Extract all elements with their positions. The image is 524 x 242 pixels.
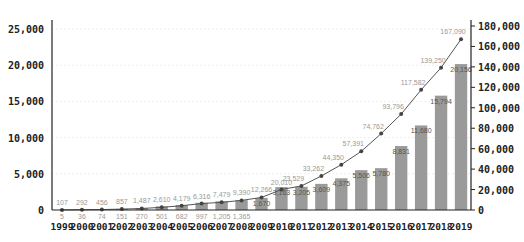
bar-value-label: 36 <box>78 213 86 220</box>
bar-value-label: 3,609 <box>313 186 331 193</box>
right-axis-tick-label: 160,000 <box>478 41 520 52</box>
line-point <box>399 112 403 116</box>
line-point <box>319 174 323 178</box>
right-axis-tick-label: 80,000 <box>478 123 514 134</box>
line-point <box>419 88 423 92</box>
left-axis-tick-label: 0 <box>38 205 44 216</box>
bar-value-label: 1,365 <box>233 213 251 220</box>
combo-chart: 536741512705016829971,2051,3651,6703,163… <box>0 0 524 242</box>
bar <box>415 125 427 210</box>
left-axis-tick-label: 25,000 <box>8 24 44 35</box>
line-point <box>180 204 184 208</box>
line-value-label: 1,487 <box>133 197 151 204</box>
line-value-label: 23,529 <box>283 175 305 182</box>
bar-value-label: 8,831 <box>392 148 410 155</box>
line-point <box>339 163 343 167</box>
line-point <box>240 198 244 202</box>
bar-value-labels: 536741512705016829971,2051,3651,6703,163… <box>60 66 472 220</box>
line-value-label: 74,762 <box>363 123 385 130</box>
line-point <box>379 132 383 136</box>
line-value-label: 9,390 <box>233 189 251 196</box>
left-axis-ticks: 05,00010,00015,00020,00025,000 <box>8 24 44 216</box>
line-value-label: 33,262 <box>303 165 325 172</box>
line-value-label: 456 <box>96 199 108 206</box>
line-point <box>200 202 204 206</box>
right-axis-tick-label: 60,000 <box>478 144 514 155</box>
bar-value-label: 5,780 <box>372 170 390 177</box>
bar-value-label: 997 <box>196 213 208 220</box>
bar-value-label: 682 <box>176 213 188 220</box>
line-point <box>439 66 443 70</box>
right-axis-tick-label: 20,000 <box>478 185 514 196</box>
right-axis-tick-label: 180,000 <box>478 21 520 32</box>
right-axis-tick-label: 120,000 <box>478 82 520 93</box>
right-axis-tick-label: 140,000 <box>478 62 520 73</box>
axes <box>52 20 471 210</box>
bar-value-label: 11,680 <box>411 127 432 134</box>
bar-value-label: 501 <box>156 213 168 220</box>
line-value-label: 6,316 <box>193 193 211 200</box>
line-point <box>359 149 363 153</box>
bar-value-label: 1,205 <box>213 213 231 220</box>
bar <box>395 146 407 210</box>
line-value-label: 2,610 <box>153 196 171 203</box>
bar-value-label: 5,506 <box>352 172 370 179</box>
line-point <box>279 188 283 192</box>
line-point <box>459 37 463 41</box>
x-axis-year-labels: 1999200020012002200320042005200620072008… <box>51 221 473 232</box>
line-point <box>220 200 224 204</box>
line-point <box>260 195 264 199</box>
line-value-label: 44,350 <box>323 154 345 161</box>
right-axis-tick-label: 100,000 <box>478 103 520 114</box>
left-axis-tick-label: 5,000 <box>14 169 44 180</box>
bar-value-label: 20,156 <box>450 66 472 73</box>
bar-value-label: 4,375 <box>333 180 351 187</box>
line-value-label: 139,250 <box>420 57 445 64</box>
left-axis-tick-label: 15,000 <box>8 96 44 107</box>
bar-value-label: 5 <box>60 213 64 220</box>
bar-value-label: 151 <box>116 213 128 220</box>
line-value-label: 57,391 <box>343 140 365 147</box>
right-axis-tick-label: 40,000 <box>478 164 514 175</box>
line-value-label: 93,796 <box>382 103 404 110</box>
bar-value-label: 1,670 <box>253 200 271 207</box>
bar-value-label: 74 <box>98 213 106 220</box>
line-value-label: 107 <box>56 199 68 206</box>
left-axis-tick-label: 10,000 <box>8 133 44 144</box>
line-value-label: 167,090 <box>440 28 465 35</box>
bar-value-label: 270 <box>136 213 148 220</box>
right-axis-tick-label: 0 <box>478 205 484 216</box>
line-value-label: 4,179 <box>173 195 191 202</box>
bar-value-label: 15,794 <box>430 98 452 105</box>
bar-value-label: 3,205 <box>293 189 311 196</box>
line-value-label: 12,266 <box>251 186 273 193</box>
bar <box>455 64 467 210</box>
bar <box>435 96 447 210</box>
line-point <box>160 205 164 209</box>
x-axis-year-label: 2019 <box>450 221 473 232</box>
line-value-label: 117,582 <box>401 79 426 86</box>
line-value-label: 857 <box>116 198 128 205</box>
left-axis-tick-label: 20,000 <box>8 60 44 71</box>
line-point <box>299 184 303 188</box>
right-axis-ticks: 020,00040,00060,00080,000100,000120,0001… <box>471 21 520 216</box>
line-value-label: 7,479 <box>213 191 231 198</box>
line-value-label: 292 <box>76 199 88 206</box>
